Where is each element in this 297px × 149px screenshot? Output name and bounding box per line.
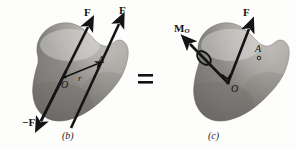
equals-sign-group: [138, 74, 153, 84]
label-force-f-upper-left: F: [84, 7, 91, 18]
point-o-marker-c: [226, 81, 229, 84]
label-force-minus-f: −F: [22, 117, 35, 128]
label-vector-r: r: [78, 74, 82, 83]
label-point-a-c: A: [255, 44, 261, 54]
label-point-a-b: A: [98, 55, 104, 65]
rigid-body-c: [178, 18, 295, 126]
label-moment-subscript: O: [185, 27, 190, 35]
label-point-o-b: O: [61, 80, 68, 90]
label-moment-mo: MO: [174, 23, 190, 35]
caption-panel-c: (c): [208, 131, 219, 141]
caption-panel-b: (b): [62, 131, 74, 141]
figure-canvas: [0, 0, 297, 149]
figure-force-couple-equivalence: F F −F O r A (b) F MO O A (c): [0, 0, 297, 149]
label-force-f-c: F: [243, 7, 250, 18]
label-force-f-at-a: F: [119, 5, 126, 16]
label-point-o-c: O: [231, 84, 238, 94]
label-moment-symbol: M: [174, 22, 185, 34]
